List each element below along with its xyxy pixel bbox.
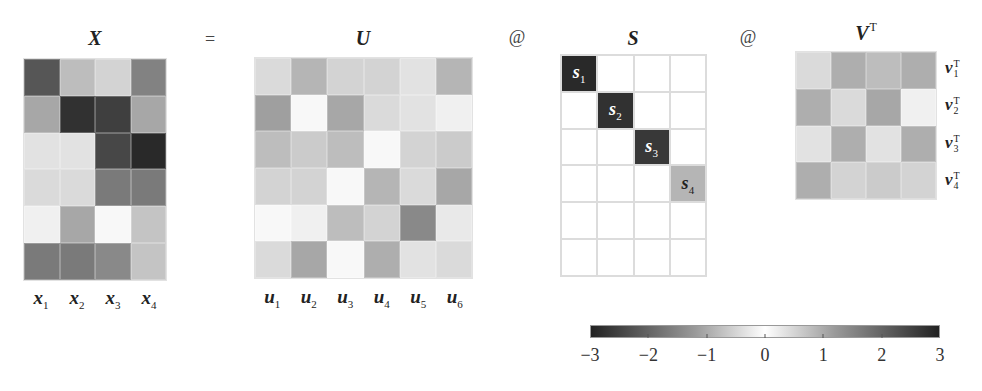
matrix-u-title: U [356,27,370,50]
matrix-x-cell [60,133,96,170]
matrix-s-cell [597,239,633,276]
label-subscript: 4 [384,298,390,310]
matrix-x-cell [24,59,60,96]
matrix-s-cell [597,165,633,202]
colorbar-tick-mark [765,334,766,338]
label-subscript: 1 [954,69,960,79]
matrix-u-cell [436,95,472,132]
column-label-u6: u6 [447,286,463,310]
label-subscript: 4 [954,181,960,191]
label-subscript: 2 [311,298,317,310]
matrix-vt-cell [831,89,866,126]
column-label-x4: x4 [142,287,157,311]
matrix-x-cell [95,206,131,243]
column-label-u5: u5 [410,286,426,310]
matrix-u-cell [400,58,436,95]
matrix-x-cell [95,243,131,280]
matrix-s-cell [634,165,670,202]
row-label-v4-transpose: vT4 [945,170,960,191]
matrix-u-cell [291,168,327,205]
column-label-x3: x3 [106,287,121,311]
matrix-x-cell [24,133,60,170]
matrix-s-cell [597,129,633,166]
matrix-x-title: X [88,27,101,50]
label-subscript: 6 [457,298,463,310]
colorbar-tick-mark [706,334,707,338]
matrix-vt-cell [866,162,901,199]
matrix-x-cell [24,206,60,243]
colorbar-tick-mark [648,334,649,338]
matrix-u-cell [255,58,291,95]
singular-value-subscript: 3 [652,146,658,158]
label-subscript: 2 [954,106,960,116]
matrix-u-cell [436,58,472,95]
matrix-u-cell [327,95,363,132]
matrix-s-cell [670,92,706,129]
matrix-x-cell [60,96,96,133]
matrix-u-cell [327,241,363,278]
matrix-u-cell [291,241,327,278]
matrix-x-cell [60,206,96,243]
matrix-s-cell [670,55,706,92]
singular-value-label: s3 [645,136,658,159]
matrix-u-cell [400,205,436,242]
matrix-u-cell [327,58,363,95]
column-label-x2: x2 [70,287,85,311]
matrix-vt-title: VT [855,20,877,45]
label-subscript: 3 [115,299,121,311]
label-base: x [70,287,80,308]
matrix-x-cell [95,59,131,96]
matrix-s-cell [634,239,670,276]
matrix-u-cell [364,131,400,168]
singular-value-cell: s1 [561,55,597,92]
matrix-u-cell [364,58,400,95]
column-label-u2: u2 [301,286,317,310]
matrix-x-cell [131,206,167,243]
matrix-x-cell [131,96,167,133]
matrix-x-cell [60,243,96,280]
label-base: x [142,287,152,308]
label-base: v [945,58,953,77]
matrix-u-cell [436,205,472,242]
matrix-u-cell [255,241,291,278]
colorbar-tick-label: 0 [761,345,770,366]
matrix-s-cell [634,202,670,239]
label-base: u [337,286,348,307]
label-scripts: T3 [954,134,960,154]
matrix-u-cell [364,168,400,205]
singular-value-label: s4 [682,173,695,196]
matrix-vt-cell [866,126,901,163]
label-subscript: 4 [151,299,157,311]
matrix-x-cell [95,96,131,133]
matmul-operator-2: @ [740,27,757,48]
matrix-u-cell [364,95,400,132]
matrix-u-cell [327,168,363,205]
matrix-u-cell [291,131,327,168]
label-base: x [34,287,44,308]
label-base: v [945,170,953,189]
label-subscript: 3 [954,144,960,154]
equals-sign: = [205,29,215,50]
matrix-vt-cell [901,162,936,199]
vt-title-sup: T [870,20,877,34]
matrix-s-cell [561,92,597,129]
matrix-u-cell [291,58,327,95]
matrix-s-cell [670,239,706,276]
matrix-x-cell [95,169,131,206]
singular-value-cell: s3 [634,129,670,166]
matrix-x-cell [95,133,131,170]
matrix-u-cell [400,95,436,132]
matrix-vt-cell [831,126,866,163]
colorbar-tick-label: 3 [936,345,945,366]
matrix-x-cell [24,96,60,133]
vt-title-base: V [855,22,868,44]
singular-value-label: s2 [609,99,622,122]
colorbar-tick-label: −2 [639,345,658,366]
matrix-u-cell [400,131,436,168]
matrix-s-cell [597,55,633,92]
colorbar-tick-label: −1 [697,345,716,366]
label-subscript: 1 [43,299,49,311]
row-label-v1-transpose: vT1 [945,58,960,79]
matrix-x-cell [24,169,60,206]
matrix-vt-cell [796,126,831,163]
